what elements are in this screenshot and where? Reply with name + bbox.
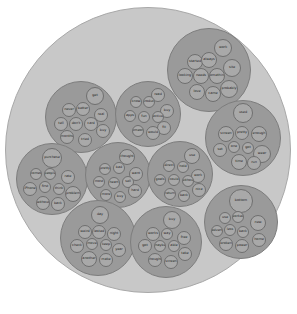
word-circle: hard (128, 184, 142, 198)
word-circle: more (100, 189, 112, 201)
word-circle: check (70, 239, 84, 253)
word-circle: pretty (99, 163, 111, 175)
word-label: heart (109, 181, 118, 184)
word-label: would (148, 131, 158, 134)
word-label: could (169, 178, 178, 181)
word-label: keep (102, 243, 110, 246)
word-circle: direct (163, 160, 175, 172)
word-circle: could (168, 174, 180, 186)
word-label: thought (120, 155, 133, 158)
word-circle: heart (108, 177, 120, 189)
word-label: worked (232, 215, 244, 218)
word-label: maybe (154, 244, 166, 247)
word-circle: problem (65, 186, 81, 202)
word-label: buy (169, 218, 175, 221)
word-circle: way (161, 228, 173, 240)
word-circle: return (164, 188, 176, 200)
word-label: direct (164, 164, 174, 167)
word-circle: thought (148, 253, 162, 267)
word-label: advert (211, 229, 222, 232)
word-circle: take (178, 247, 192, 261)
word-circle: back (51, 197, 65, 211)
word-circle: power (235, 239, 249, 253)
word-circle: iPhone (23, 182, 37, 196)
word-circle: keep (100, 239, 112, 251)
word-label: night (110, 232, 119, 235)
word-circle: probably (220, 80, 238, 98)
word-label: more (102, 193, 111, 196)
word-label: purchase (44, 156, 60, 159)
word-label: problem (66, 192, 80, 195)
word-label: sell (125, 180, 131, 183)
word-label: love (193, 90, 200, 93)
word-label: think (55, 187, 64, 190)
word-label: bottom (235, 199, 247, 202)
word-label: never (64, 108, 74, 111)
word-label: check (72, 244, 82, 247)
word-label: use (222, 216, 228, 219)
word-circle: maybe (154, 240, 166, 252)
word-label: hold (179, 165, 186, 168)
word-label: make (101, 258, 110, 261)
word-circle: used (233, 103, 253, 123)
word-label: used (239, 111, 247, 114)
word-label: take (181, 252, 188, 255)
word-circle: came (205, 86, 221, 102)
word-circle: months (60, 130, 74, 144)
word-circle: buy (114, 191, 126, 203)
word-circle: make (99, 253, 113, 267)
word-label: fit (162, 126, 165, 129)
word-circle: first (39, 181, 51, 193)
word-label: way (164, 232, 171, 235)
word-circle: screen (164, 255, 178, 269)
word-circle: weird (78, 225, 92, 239)
word-circle: goals (154, 174, 166, 186)
word-label: year (115, 248, 123, 251)
word-circle: someone (132, 125, 144, 137)
word-circle: people (44, 168, 56, 180)
word-label: most (95, 180, 103, 183)
word-circle: apps (124, 110, 136, 122)
word-label: people (44, 172, 56, 175)
word-label: home (254, 238, 264, 241)
word-label: active (153, 115, 163, 118)
word-label: real (98, 113, 104, 116)
word-label: back (239, 230, 247, 233)
word-label: power (237, 244, 247, 247)
word-circle: back (178, 190, 190, 202)
word-circle: know (130, 96, 142, 108)
word-circle: bad (113, 162, 125, 174)
word-circle: don't (69, 117, 83, 131)
word-circle: set (213, 143, 227, 157)
word-label: back (54, 202, 62, 205)
word-label: one (231, 145, 237, 148)
word-label: weird (80, 230, 89, 233)
word-label: don't (72, 122, 81, 125)
word-label: product (143, 100, 155, 103)
word-label: able (170, 244, 177, 247)
word-label: return (165, 192, 175, 195)
word-circle: bottom (229, 189, 253, 213)
word-circle: buy (96, 124, 110, 138)
word-label: comes (30, 172, 41, 175)
word-label: read (154, 93, 162, 96)
word-label: screen (165, 260, 176, 263)
word-circle: screen (218, 126, 234, 142)
word-circle: home (252, 233, 266, 247)
word-label: started (189, 60, 201, 63)
word-label: use (189, 154, 195, 157)
word-circle: hold (177, 161, 189, 173)
word-circle: run (247, 156, 261, 170)
word-circle: broken (219, 237, 233, 251)
word-circle: purchase (42, 148, 62, 168)
word-circle: pretty (235, 126, 249, 140)
word-label: time (235, 160, 243, 163)
word-label: looking (179, 74, 191, 77)
word-circle: new (250, 215, 266, 231)
word-label: needs (196, 74, 206, 77)
word-label: first (42, 185, 49, 188)
word-circle: less (224, 224, 236, 236)
word-label: something (209, 74, 225, 77)
word-label: came (208, 92, 217, 95)
word-label: new (254, 221, 261, 224)
